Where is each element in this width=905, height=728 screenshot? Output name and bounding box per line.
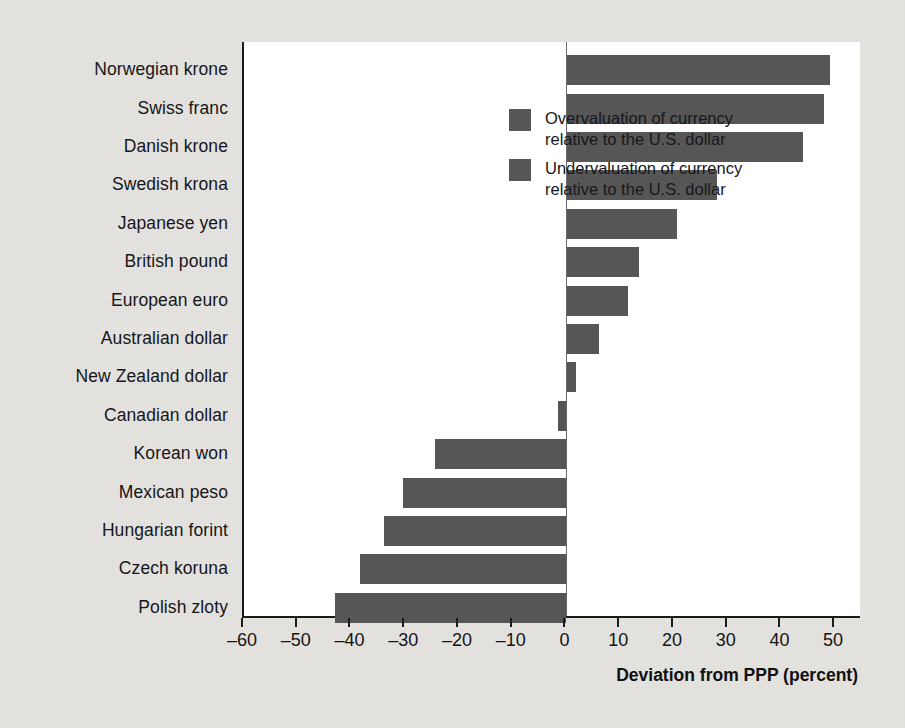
legend-swatch-overvaluation <box>509 109 531 131</box>
category-axis-labels: Norwegian kroneSwiss francDanish kroneSw… <box>0 42 228 618</box>
x-tick-label--30: –30 <box>388 630 418 651</box>
category-label-british-pound: British pound <box>0 253 228 271</box>
bar-mexican-peso <box>403 478 567 508</box>
x-tick-label--60: –60 <box>227 630 257 651</box>
category-label-australian-dollar: Australian dollar <box>0 330 228 348</box>
category-label-polish-zloty: Polish zloty <box>0 599 228 617</box>
category-label-new-zealand-dollar: New Zealand dollar <box>0 368 228 386</box>
legend-label-undervaluation-line2: relative to the U.S. dollar <box>545 179 742 200</box>
bar-australian-dollar <box>566 324 598 354</box>
bar-japanese-yen <box>566 209 676 239</box>
x-tick-10 <box>617 618 619 627</box>
category-label-hungarian-forint: Hungarian forint <box>0 522 228 540</box>
category-label-czech-koruna: Czech koruna <box>0 560 228 578</box>
category-label-european-euro: European euro <box>0 292 228 310</box>
legend-label-overvaluation-line2: relative to the U.S. dollar <box>545 129 733 150</box>
legend-label-overvaluation-line1: Overvaluation of currency <box>545 108 733 129</box>
x-tick-0 <box>563 618 565 627</box>
legend-label-undervaluation-line1: Undervaluation of currency <box>545 158 742 179</box>
x-tick--60 <box>241 618 243 627</box>
x-tick-label--10: –10 <box>496 630 526 651</box>
x-tick-20 <box>671 618 673 627</box>
category-label-norwegian-krone: Norwegian krone <box>0 61 228 79</box>
category-label-canadian-dollar: Canadian dollar <box>0 407 228 425</box>
category-label-swedish-krona: Swedish krona <box>0 176 228 194</box>
chart-legend: Overvaluation of currency relative to th… <box>509 108 809 209</box>
bar-european-euro <box>566 286 628 316</box>
x-tick-label-20: 20 <box>662 630 682 651</box>
legend-item-overvaluation: Overvaluation of currency relative to th… <box>509 108 809 149</box>
legend-label-overvaluation: Overvaluation of currency relative to th… <box>545 108 733 149</box>
category-label-swiss-franc: Swiss franc <box>0 100 228 118</box>
x-tick-label-10: 10 <box>608 630 628 651</box>
plot-area: Overvaluation of currency relative to th… <box>242 42 860 618</box>
x-tick--40 <box>348 618 350 627</box>
x-tick-label-30: 30 <box>716 630 736 651</box>
x-tick-label--50: –50 <box>281 630 311 651</box>
x-tick--30 <box>402 618 404 627</box>
bar-norwegian-krone <box>566 55 829 85</box>
x-tick--20 <box>456 618 458 627</box>
x-tick-label-50: 50 <box>823 630 843 651</box>
x-tick--50 <box>295 618 297 627</box>
x-tick-label-40: 40 <box>769 630 789 651</box>
bar-hungarian-forint <box>384 516 567 546</box>
x-tick-40 <box>778 618 780 627</box>
bar-czech-koruna <box>360 554 567 584</box>
x-tick--10 <box>510 618 512 627</box>
category-label-korean-won: Korean won <box>0 445 228 463</box>
x-tick-label-0: 0 <box>559 630 569 651</box>
category-label-danish-krone: Danish krone <box>0 138 228 156</box>
x-tick-label--20: –20 <box>442 630 472 651</box>
legend-label-undervaluation: Undervaluation of currency relative to t… <box>545 158 742 199</box>
bar-new-zealand-dollar <box>566 362 576 392</box>
x-tick-label--40: –40 <box>334 630 364 651</box>
x-tick-50 <box>832 618 834 627</box>
x-axis-title: Deviation from PPP (percent) <box>616 665 858 686</box>
category-label-mexican-peso: Mexican peso <box>0 484 228 502</box>
bar-british-pound <box>566 247 639 277</box>
bar-korean-won <box>435 439 567 469</box>
legend-item-undervaluation: Undervaluation of currency relative to t… <box>509 158 809 199</box>
category-label-japanese-yen: Japanese yen <box>0 215 228 233</box>
ppp-deviation-bar-chart: Norwegian kroneSwiss francDanish kroneSw… <box>0 0 905 728</box>
legend-swatch-undervaluation <box>509 159 531 181</box>
x-tick-30 <box>725 618 727 627</box>
value-axis: Deviation from PPP (percent) –60–50–40–3… <box>242 618 860 728</box>
